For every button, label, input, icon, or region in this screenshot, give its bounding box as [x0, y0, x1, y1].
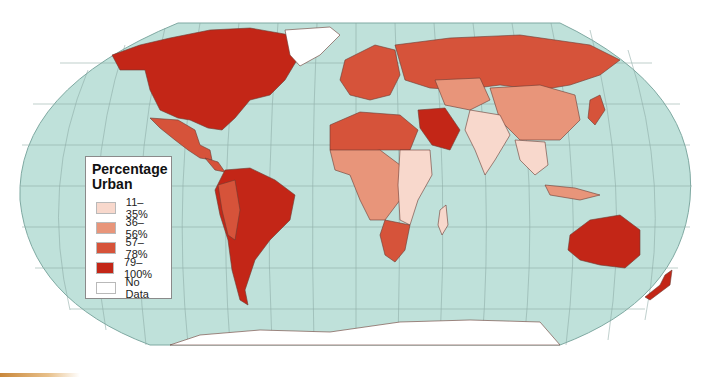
accent-bar [0, 373, 80, 377]
legend-item-36-56: 36–56% [92, 218, 165, 238]
legend-swatch [96, 202, 116, 214]
legend-item-11-35: 11–35% [92, 198, 165, 218]
legend-title: Percentage Urban [92, 162, 165, 192]
map-legend: Percentage Urban 11–35% 36–56% 57–78% 79… [85, 156, 172, 299]
legend-swatch [96, 282, 116, 294]
legend-swatch [96, 222, 116, 234]
legend-item-no-data: No Data [92, 278, 165, 298]
legend-item-79-100: 79–100% [92, 258, 165, 278]
legend-swatch [96, 262, 114, 274]
legend-swatch [96, 242, 116, 254]
legend-item-57-78: 57–78% [92, 238, 165, 258]
